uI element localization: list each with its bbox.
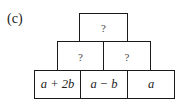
pyramid-bottom-right-cell: a [127,70,175,99]
pyramid-bottom-middle-cell: a − b [80,70,128,99]
pyramid-bottom-left-cell: a + 2b [34,70,81,99]
pyramid-top-cell: ? [79,13,128,42]
pyramid-middle-left-cell: ? [57,41,104,72]
pyramid-middle-right-cell: ? [103,41,151,72]
part-label: (c) [7,11,23,27]
